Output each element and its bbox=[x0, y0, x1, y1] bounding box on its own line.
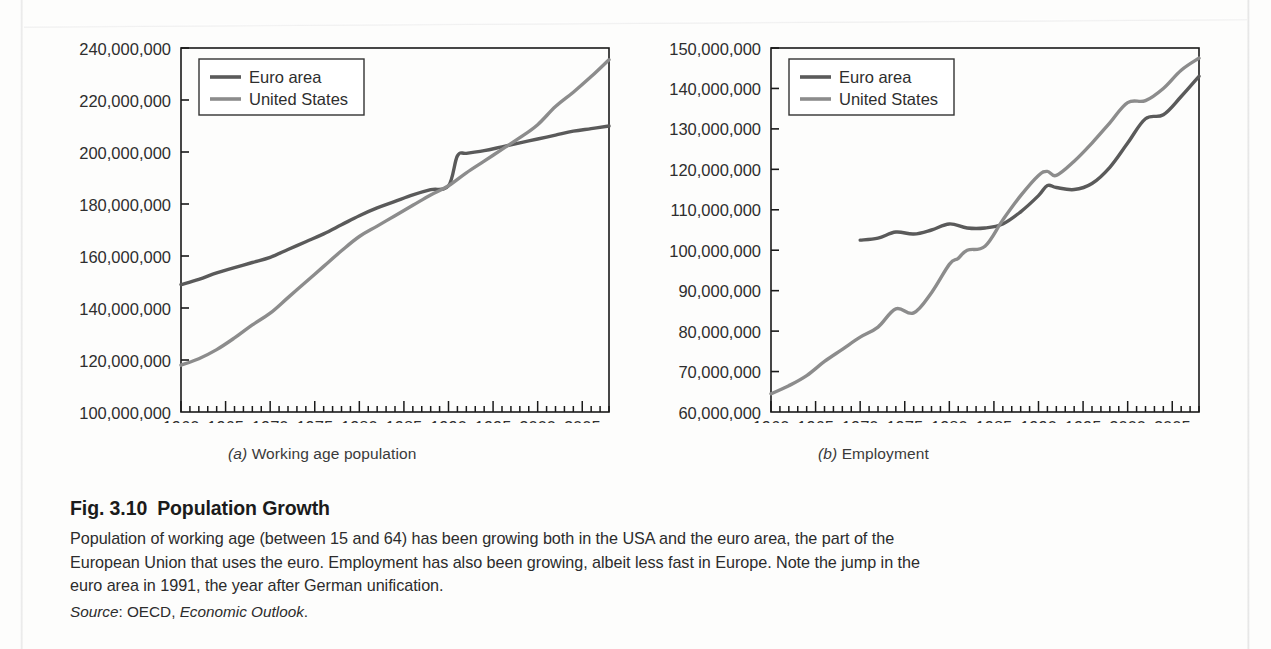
x-axis-tick-label: 1975 bbox=[886, 418, 923, 423]
x-axis-tick-label: 2005 bbox=[564, 418, 601, 423]
figure-title-text: Population Growth bbox=[157, 497, 330, 519]
y-axis-tick-label: 180,000,000 bbox=[79, 196, 171, 214]
chart-a-canvas: 100,000,000120,000,000140,000,000160,000… bbox=[55, 38, 615, 423]
x-axis-tick-label: 1975 bbox=[296, 418, 333, 423]
figure-number: Fig. 3.10 bbox=[70, 497, 147, 519]
source-work-title: Economic Outlook bbox=[180, 603, 304, 620]
y-axis-tick-label: 160,000,000 bbox=[79, 248, 171, 266]
x-axis-tick-label: 2000 bbox=[1109, 418, 1146, 423]
figure-description-line-3: euro area in 1991, the year after German… bbox=[70, 574, 1190, 598]
legend-label-euro-area: Euro area bbox=[839, 68, 912, 86]
x-axis-tick-label: 1960 bbox=[753, 418, 790, 423]
source-separator: : bbox=[118, 603, 127, 620]
chart-working-age-population: 100,000,000120,000,000140,000,000160,000… bbox=[55, 38, 615, 423]
figure-description-line-1: Population of working age (between 15 an… bbox=[70, 527, 1190, 551]
x-axis-tick-label: 1985 bbox=[976, 418, 1013, 423]
chart-b-canvas: 60,000,00070,000,00080,000,00090,000,000… bbox=[645, 38, 1205, 423]
figure-title: Fig. 3.10Population Growth bbox=[70, 497, 1210, 520]
y-axis-tick-label: 100,000,000 bbox=[79, 404, 171, 422]
x-axis-tick-label: 1980 bbox=[931, 418, 968, 423]
x-axis-tick-label: 1965 bbox=[797, 418, 834, 423]
source-period: . bbox=[304, 603, 308, 620]
x-axis-tick-label: 1985 bbox=[386, 418, 423, 423]
y-axis-tick-label: 120,000,000 bbox=[79, 352, 171, 370]
subcaption-b: (b) Employment bbox=[818, 445, 929, 463]
y-axis-tick-label: 200,000,000 bbox=[79, 144, 171, 162]
y-axis-tick-label: 70,000,000 bbox=[678, 363, 761, 381]
x-axis-tick-label: 1970 bbox=[842, 418, 879, 423]
source-label: Source bbox=[70, 603, 118, 620]
figure-3-10: 100,000,000120,000,000140,000,000160,000… bbox=[0, 0, 1271, 649]
y-axis-tick-label: 110,000,000 bbox=[670, 201, 761, 219]
figure-caption: Fig. 3.10Population Growth Population of… bbox=[70, 497, 1210, 621]
x-axis-tick-label: 1990 bbox=[430, 418, 467, 423]
y-axis-tick-label: 150,000,000 bbox=[669, 40, 761, 58]
source-organization: OECD, bbox=[127, 603, 180, 620]
x-axis-tick-label: 1965 bbox=[207, 418, 244, 423]
legend-label-united-states: United States bbox=[249, 90, 348, 108]
subcaption-a-label: Working age population bbox=[247, 445, 416, 462]
figure-source: Source: OECD, Economic Outlook. bbox=[70, 603, 1210, 621]
y-axis-tick-label: 80,000,000 bbox=[678, 323, 761, 341]
series-line-euro-area bbox=[181, 126, 609, 285]
x-axis-tick-label: 1970 bbox=[252, 418, 289, 423]
x-axis-tick-label: 1990 bbox=[1020, 418, 1057, 423]
x-axis-tick-label: 2005 bbox=[1154, 418, 1191, 423]
x-axis-tick-label: 1995 bbox=[475, 418, 512, 423]
y-axis-tick-label: 90,000,000 bbox=[678, 282, 761, 300]
subcaption-b-label: Employment bbox=[837, 445, 929, 462]
y-axis-tick-label: 100,000,000 bbox=[669, 242, 761, 260]
y-axis-tick-label: 140,000,000 bbox=[79, 300, 171, 318]
legend-label-euro-area: Euro area bbox=[249, 68, 322, 86]
legend-label-united-states: United States bbox=[839, 90, 938, 108]
y-axis-tick-label: 120,000,000 bbox=[669, 161, 761, 179]
y-axis-tick-label: 130,000,000 bbox=[669, 120, 761, 138]
y-axis-tick-label: 220,000,000 bbox=[79, 92, 171, 110]
chart-employment: 60,000,00070,000,00080,000,00090,000,000… bbox=[645, 38, 1205, 423]
y-axis-tick-label: 240,000,000 bbox=[79, 40, 171, 58]
subcaption-b-tag: (b) bbox=[818, 445, 837, 462]
y-axis-tick-label: 140,000,000 bbox=[669, 80, 761, 98]
subcaption-a-tag: (a) bbox=[228, 445, 247, 462]
x-axis-tick-label: 1995 bbox=[1065, 418, 1102, 423]
x-axis-tick-label: 1960 bbox=[163, 418, 200, 423]
subcaption-a: (a) Working age population bbox=[228, 445, 416, 463]
y-axis-tick-label: 60,000,000 bbox=[678, 404, 761, 422]
figure-description-line-2: European Union that uses the euro. Emplo… bbox=[70, 551, 1190, 575]
figure-description: Population of working age (between 15 an… bbox=[70, 527, 1190, 598]
x-axis-tick-label: 1980 bbox=[341, 418, 378, 423]
x-axis-tick-label: 2000 bbox=[519, 418, 556, 423]
